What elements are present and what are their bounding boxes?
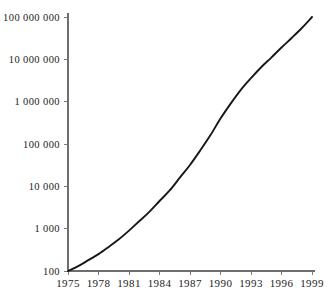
x-tick-label: 1975 bbox=[56, 277, 80, 289]
y-tick-label: 1 000 bbox=[34, 223, 60, 234]
y-tick-label: 100 000 bbox=[23, 139, 60, 150]
x-tick-label: 1993 bbox=[239, 277, 263, 289]
y-tick-label: 1 000 000 bbox=[14, 96, 60, 107]
x-tick-label: 1990 bbox=[209, 277, 233, 289]
semilog-line-chart: 1001 00010 000100 0001 000 00010 000 000… bbox=[0, 0, 333, 291]
x-tick-label: 1999 bbox=[300, 277, 324, 289]
x-axis-labels: 197519781981198419871990199319961999 bbox=[56, 277, 324, 289]
x-tick-label: 1987 bbox=[178, 277, 202, 289]
x-tick-label: 1996 bbox=[270, 277, 294, 289]
chart-figure: 1001 00010 000100 0001 000 00010 000 000… bbox=[0, 0, 333, 291]
y-tick-label: 10 000 000 bbox=[9, 54, 60, 65]
x-tick-label: 1978 bbox=[87, 277, 111, 289]
x-tick-label: 1984 bbox=[148, 277, 172, 289]
y-tick-label: 100 bbox=[43, 266, 60, 277]
y-tick-label: 10 000 bbox=[29, 181, 60, 192]
x-tick-label: 1981 bbox=[117, 277, 141, 289]
y-tick-label: 100 000 000 bbox=[3, 12, 60, 23]
